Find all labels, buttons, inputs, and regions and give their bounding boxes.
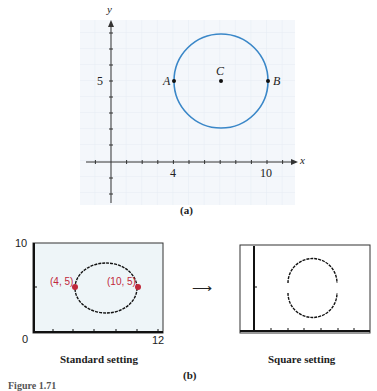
y-axis-label: y	[107, 3, 112, 15]
standard-screen	[33, 243, 163, 333]
point-label-4-5: (4, 5)	[50, 276, 73, 287]
x-tick-4: 4	[170, 166, 176, 181]
point-b-label: B	[273, 74, 280, 89]
point-label-10-5: (10, 5)	[107, 276, 136, 287]
caption-b: (b)	[183, 369, 196, 381]
x-tick-10: 10	[260, 166, 272, 181]
standard-x-max: 12	[152, 334, 164, 346]
point-c-label: C	[216, 64, 224, 79]
square-setting-label: Square setting	[268, 353, 335, 365]
point-a-label: A	[163, 74, 170, 89]
standard-x-min: 0	[22, 333, 28, 345]
point-a	[172, 79, 176, 83]
point-b	[266, 79, 270, 83]
figure-caption: Figure 1.71	[8, 380, 56, 391]
standard-y-max: 10	[15, 237, 27, 249]
standard-setting-label: Standard setting	[60, 353, 138, 365]
square-screen	[240, 245, 370, 333]
arrow-icon: ⟶	[192, 280, 212, 297]
y-tick-5: 5	[97, 74, 103, 89]
point-c	[219, 79, 223, 83]
caption-a: (a)	[180, 204, 193, 216]
x-axis-label: x	[300, 154, 305, 166]
